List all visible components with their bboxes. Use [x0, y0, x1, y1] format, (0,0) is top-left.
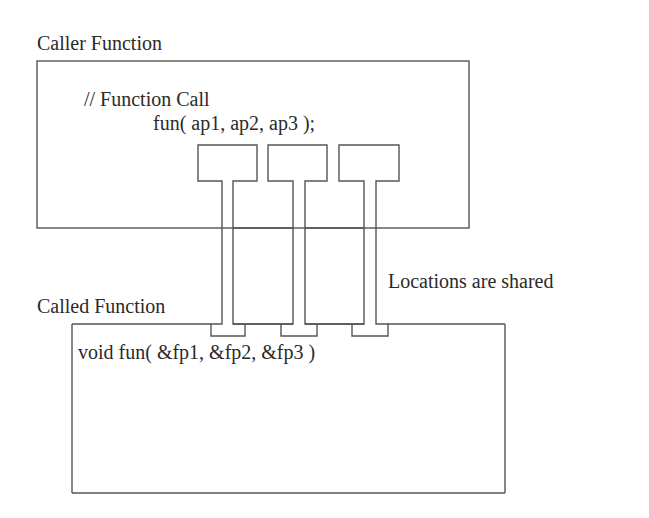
- function-signature: void fun( &fp1, &fp2, &fp3 ): [78, 342, 315, 362]
- function-call-statement: fun( ap1, ap2, ap3 );: [153, 113, 315, 133]
- shared-location-connector-1: [198, 145, 257, 336]
- function-call-comment: // Function Call: [84, 89, 210, 109]
- shared-location-connector-3: [339, 145, 399, 336]
- caller-function-title: Caller Function: [37, 33, 162, 53]
- locations-shared-annotation: Locations are shared: [388, 271, 553, 291]
- called-function-title: Called Function: [37, 296, 165, 316]
- diagram-canvas: [0, 0, 649, 518]
- shared-location-connector-2: [268, 145, 327, 336]
